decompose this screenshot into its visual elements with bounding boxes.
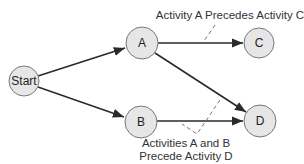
node-d-label: D bbox=[256, 114, 265, 128]
precedence-diagram: Start A B C D Activity A Precedes Activi… bbox=[0, 0, 304, 164]
node-c: C bbox=[244, 28, 274, 58]
edge-start-to-a bbox=[38, 48, 125, 76]
node-start: Start bbox=[9, 66, 39, 96]
node-d: D bbox=[244, 105, 276, 137]
node-a: A bbox=[126, 27, 158, 59]
edge-a-to-d bbox=[155, 53, 246, 112]
node-start-label: Start bbox=[11, 74, 37, 88]
edge-start-to-b bbox=[38, 87, 124, 117]
node-b: B bbox=[125, 106, 157, 138]
leader-line-a-c bbox=[204, 25, 215, 41]
annotation-ab-precede-d-line1: Activities A and B bbox=[142, 137, 231, 149]
annotation-ab-precede-d-line2: Precede Activity D bbox=[139, 150, 232, 162]
node-c-label: C bbox=[255, 36, 264, 50]
node-b-label: B bbox=[137, 115, 145, 129]
leader-line-ab-d bbox=[182, 100, 220, 134]
node-a-label: A bbox=[138, 36, 146, 50]
annotation-a-precedes-c: Activity A Precedes Activity C bbox=[156, 9, 304, 21]
